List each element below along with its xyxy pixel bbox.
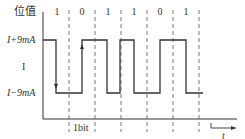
falling-edge-arrow-icon [54, 84, 58, 89]
waveform-plot [0, 0, 245, 139]
rising-edge-arrow-icon [80, 44, 84, 49]
signal-waveform [43, 40, 203, 93]
